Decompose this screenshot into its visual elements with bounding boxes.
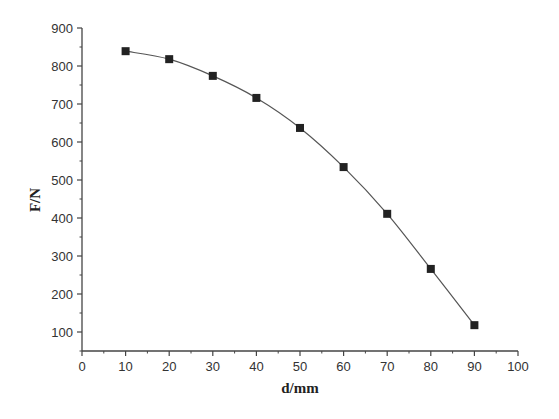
x-tick-label: 70 bbox=[380, 359, 394, 374]
data-point-marker bbox=[122, 47, 130, 55]
y-tick-label: 300 bbox=[51, 249, 73, 264]
x-tick-label: 10 bbox=[118, 359, 132, 374]
x-tick-label: 0 bbox=[78, 359, 85, 374]
y-tick-label: 200 bbox=[51, 287, 73, 302]
x-tick-label: 60 bbox=[336, 359, 350, 374]
series-line bbox=[126, 51, 475, 325]
x-tick-label: 20 bbox=[162, 359, 176, 374]
data-point-marker bbox=[340, 163, 348, 171]
x-tick-label: 90 bbox=[467, 359, 481, 374]
y-tick-label: 100 bbox=[51, 325, 73, 340]
x-tick-label: 50 bbox=[293, 359, 307, 374]
x-axis-ticks: 0102030405060708090100 bbox=[78, 351, 528, 374]
y-tick-label: 500 bbox=[51, 173, 73, 188]
line-chart: 100200300400500600700800900 010203040506… bbox=[0, 0, 559, 419]
data-point-marker bbox=[470, 321, 478, 329]
y-tick-label: 800 bbox=[51, 59, 73, 74]
data-markers bbox=[122, 47, 479, 329]
x-tick-label: 100 bbox=[507, 359, 529, 374]
data-point-marker bbox=[427, 265, 435, 273]
x-tick-label: 80 bbox=[424, 359, 438, 374]
data-point-marker bbox=[209, 72, 217, 80]
y-axis-ticks: 100200300400500600700800900 bbox=[51, 21, 82, 352]
x-tick-label: 30 bbox=[206, 359, 220, 374]
data-point-marker bbox=[165, 55, 173, 63]
y-tick-label: 700 bbox=[51, 97, 73, 112]
y-axis-title: F/N bbox=[27, 188, 43, 212]
x-tick-label: 40 bbox=[249, 359, 263, 374]
data-point-marker bbox=[383, 210, 391, 218]
y-tick-label: 600 bbox=[51, 135, 73, 150]
data-point-marker bbox=[252, 94, 260, 102]
data-point-marker bbox=[296, 124, 304, 132]
x-axis-title: d/mm bbox=[281, 380, 319, 396]
y-tick-label: 400 bbox=[51, 211, 73, 226]
y-tick-label: 900 bbox=[51, 21, 73, 36]
